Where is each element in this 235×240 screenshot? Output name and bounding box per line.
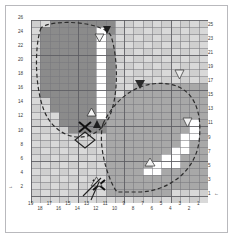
- grid-cell: [59, 168, 69, 176]
- grid-cell: [50, 168, 60, 176]
- grid-cell: [50, 175, 60, 183]
- right-lobe-cell: [161, 168, 171, 176]
- grid-cell: [68, 182, 78, 190]
- right-lobe-cell: [161, 126, 171, 134]
- right-lobe-white-cell: [171, 161, 181, 169]
- left-lobe-cell: [68, 48, 78, 56]
- left-lobe-cell: [78, 90, 88, 98]
- left-lobe-cell: [40, 48, 50, 56]
- right-lobe-cell: [199, 168, 208, 176]
- grid-cell: [68, 140, 78, 148]
- right-tick-7: 7: [208, 150, 224, 155]
- right-lobe-cell: [124, 104, 134, 112]
- left-lobe-cell: [59, 20, 69, 28]
- left-lobe-cell: [106, 48, 116, 56]
- grid-cell: [87, 140, 97, 148]
- right-tick-25: 25: [208, 23, 224, 28]
- right-lobe-white-cell: [189, 133, 199, 141]
- right-lobe-cell: [189, 175, 199, 183]
- right-lobe-cell: [199, 175, 208, 183]
- right-lobe-cell: [143, 104, 153, 112]
- grid-cell: [189, 27, 199, 35]
- grid-cell: [171, 55, 181, 63]
- right-lobe-cell: [152, 104, 162, 112]
- grid-cell: [124, 20, 134, 28]
- left-tick-2: 2: [4, 185, 23, 190]
- right-tick-21: 21: [208, 51, 224, 56]
- left-lobe-cell: [40, 76, 50, 84]
- right-lobe-cell: [133, 112, 143, 120]
- grid-cell: [124, 55, 134, 63]
- grid-cell: [171, 62, 181, 70]
- left-lobe-cell: [50, 97, 60, 105]
- grid-cell: [68, 161, 78, 169]
- left-lobe-cell: [59, 34, 69, 42]
- grid-cell: [152, 27, 162, 35]
- grid-cell: [180, 69, 190, 77]
- grid-cell: [78, 189, 88, 197]
- bottom-tick-4: 4: [164, 207, 176, 212]
- right-lobe-cell: [152, 90, 162, 98]
- grid-cell: [50, 140, 60, 148]
- grid-cell: [133, 20, 143, 28]
- left-lobe-cell: [106, 69, 116, 77]
- grid-cell: [87, 182, 97, 190]
- right-lobe-white-cell: [189, 126, 199, 134]
- right-lobe-cell: [161, 90, 171, 98]
- right-lobe-cell: [180, 154, 190, 162]
- grid-cell: [50, 133, 60, 141]
- left-lobe-cell: [78, 34, 88, 42]
- right-lobe-cell: [189, 168, 199, 176]
- grid-cell: [78, 154, 88, 162]
- bottom-tick-13: 13: [81, 202, 93, 207]
- grid-cell: [40, 133, 50, 141]
- left-lobe-cell: [87, 119, 97, 127]
- right-lobe-cell: [124, 147, 134, 155]
- right-lobe-cell: [106, 161, 116, 169]
- left-lobe-white-cell: [96, 83, 106, 91]
- grid-cell: [31, 168, 41, 176]
- right-lobe-white-cell: [180, 133, 190, 141]
- grid-cell: [31, 182, 41, 190]
- left-tick-12: 12: [4, 114, 23, 119]
- grid-cell: [59, 154, 69, 162]
- grid-cell: [161, 27, 171, 35]
- grid-cell: [31, 140, 41, 148]
- bottom-tick-7: 7: [136, 202, 148, 207]
- right-lobe-cell: [152, 182, 162, 190]
- grid-cell: [87, 133, 97, 141]
- grid-cell: [133, 27, 143, 35]
- grid-cell: [40, 154, 50, 162]
- right-lobe-cell: [143, 182, 153, 190]
- grid-cell: [78, 147, 88, 155]
- left-lobe-cell: [78, 76, 88, 84]
- grid-cell: [31, 161, 41, 169]
- grid-cell: [68, 189, 78, 197]
- grid-cell: [189, 69, 199, 77]
- right-lobe-white-cell: [180, 140, 190, 148]
- right-lobe-cell: [199, 161, 208, 169]
- left-lobe-cell: [59, 48, 69, 56]
- grid-cell: [78, 161, 88, 169]
- grid-cell: [124, 48, 134, 56]
- grid-cell: [180, 34, 190, 42]
- right-lobe-cell: [133, 104, 143, 112]
- right-tick-15: 15: [208, 93, 224, 98]
- grid-cell: [180, 20, 190, 28]
- grid-cell: [171, 189, 181, 197]
- grid-cell: [171, 41, 181, 49]
- right-lobe-cell: [189, 154, 199, 162]
- left-lobe-white-cell: [96, 48, 106, 56]
- grid-cell: [133, 34, 143, 42]
- grid-cell: [78, 182, 88, 190]
- right-lobe-cell: [143, 189, 153, 197]
- right-lobe-cell: [115, 140, 125, 148]
- right-lobe-cell: [199, 154, 208, 162]
- right-lobe-cell: [161, 175, 171, 183]
- grid-cell: [171, 48, 181, 56]
- right-lobe-cell: [115, 189, 125, 197]
- right-lobe-cell: [199, 112, 208, 120]
- grid-cell: [59, 182, 69, 190]
- right-lobe-cell: [152, 112, 162, 120]
- grid-cell: [180, 189, 190, 197]
